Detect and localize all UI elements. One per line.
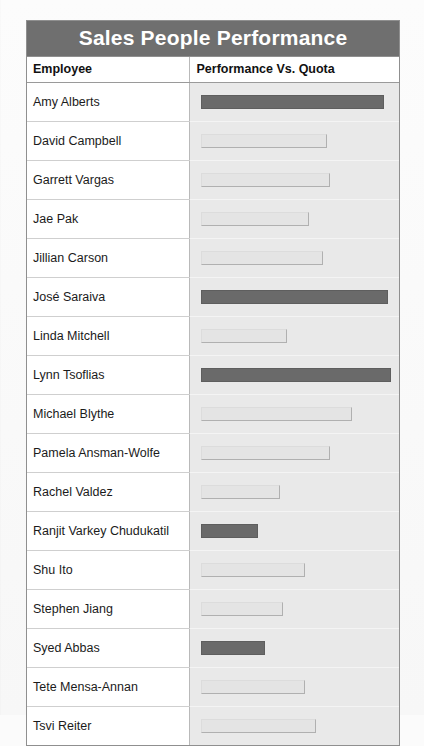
bar-track <box>190 161 400 199</box>
bar-track <box>190 83 400 121</box>
performance-bar <box>201 524 259 538</box>
header-row: Employee Performance Vs. Quota <box>27 57 399 82</box>
bar-track <box>190 200 400 238</box>
performance-bar-cell <box>189 355 399 394</box>
bar-track <box>190 707 400 745</box>
employee-name-cell: Jae Pak <box>27 199 189 238</box>
employee-name-cell: Pamela Ansman-Wolfe <box>27 433 189 472</box>
performance-bar <box>201 173 331 187</box>
table-row: Tete Mensa-Annan <box>27 667 399 706</box>
table-row: Stephen Jiang <box>27 589 399 628</box>
performance-bar-cell <box>189 628 399 667</box>
performance-bar-cell <box>189 199 399 238</box>
performance-bar <box>201 446 331 460</box>
table-row: Michael Blythe <box>27 394 399 433</box>
performance-bar-cell <box>189 706 399 745</box>
report-title: Sales People Performance <box>27 21 399 57</box>
sales-performance-report: Sales People Performance Employee Perfor… <box>26 20 400 746</box>
table-row: Linda Mitchell <box>27 316 399 355</box>
performance-bar <box>201 563 305 577</box>
table-row: Garrett Vargas <box>27 160 399 199</box>
employee-name-cell: Rachel Valdez <box>27 472 189 511</box>
table-row: Amy Alberts <box>27 82 399 121</box>
employee-name-cell: Jillian Carson <box>27 238 189 277</box>
column-header-employee: Employee <box>27 57 189 82</box>
employee-name-cell: Michael Blythe <box>27 394 189 433</box>
bar-track <box>190 278 400 316</box>
performance-bar-cell <box>189 82 399 121</box>
bar-track <box>190 239 400 277</box>
table-row: Jillian Carson <box>27 238 399 277</box>
performance-bar-cell <box>189 472 399 511</box>
performance-bar-cell <box>189 121 399 160</box>
performance-bar-cell <box>189 667 399 706</box>
performance-bar <box>201 680 305 694</box>
performance-bar-cell <box>189 433 399 472</box>
performance-bar <box>201 251 323 265</box>
employee-name-cell: Garrett Vargas <box>27 160 189 199</box>
table-row: Lynn Tsoflias <box>27 355 399 394</box>
table-row: Syed Abbas <box>27 628 399 667</box>
performance-bar <box>201 641 266 655</box>
performance-bar-cell <box>189 511 399 550</box>
performance-bar-cell <box>189 277 399 316</box>
bar-track <box>190 551 400 589</box>
performance-bar <box>201 290 388 304</box>
performance-table: Employee Performance Vs. Quota Amy Alber… <box>27 57 399 745</box>
table-header: Employee Performance Vs. Quota <box>27 57 399 82</box>
employee-name-cell: Tsvi Reiter <box>27 706 189 745</box>
bar-track <box>190 122 400 160</box>
performance-bar <box>201 329 287 343</box>
employee-name-cell: Amy Alberts <box>27 82 189 121</box>
performance-bar <box>201 602 284 616</box>
employee-name-cell: Shu Ito <box>27 550 189 589</box>
performance-bar-cell <box>189 550 399 589</box>
table-row: David Campbell <box>27 121 399 160</box>
employee-name-cell: Lynn Tsoflias <box>27 355 189 394</box>
performance-bar <box>201 719 316 733</box>
employee-name-cell: David Campbell <box>27 121 189 160</box>
bar-track <box>190 317 400 355</box>
performance-bar <box>201 134 327 148</box>
table-row: Shu Ito <box>27 550 399 589</box>
bar-track <box>190 434 400 472</box>
bar-track <box>190 356 400 394</box>
performance-bar <box>201 368 392 382</box>
bar-track <box>190 473 400 511</box>
bar-track <box>190 629 400 667</box>
table-row: Pamela Ansman-Wolfe <box>27 433 399 472</box>
employee-name-cell: Stephen Jiang <box>27 589 189 628</box>
table-row: Ranjit Varkey Chudukatil <box>27 511 399 550</box>
column-header-performance: Performance Vs. Quota <box>189 57 399 82</box>
performance-bar <box>201 212 309 226</box>
employee-name-cell: Tete Mensa-Annan <box>27 667 189 706</box>
employee-name-cell: Ranjit Varkey Chudukatil <box>27 511 189 550</box>
performance-bar <box>201 485 280 499</box>
performance-bar-cell <box>189 160 399 199</box>
table-body: Amy AlbertsDavid CampbellGarrett VargasJ… <box>27 82 399 745</box>
bar-track <box>190 590 400 628</box>
employee-name-cell: José Saraiva <box>27 277 189 316</box>
performance-bar <box>201 407 352 421</box>
performance-bar <box>201 95 385 109</box>
employee-name-cell: Syed Abbas <box>27 628 189 667</box>
bar-track <box>190 668 400 706</box>
table-row: Rachel Valdez <box>27 472 399 511</box>
performance-bar-cell <box>189 238 399 277</box>
performance-bar-cell <box>189 589 399 628</box>
employee-name-cell: Linda Mitchell <box>27 316 189 355</box>
bar-track <box>190 395 400 433</box>
bar-track <box>190 512 400 550</box>
performance-bar-cell <box>189 394 399 433</box>
table-row: José Saraiva <box>27 277 399 316</box>
performance-bar-cell <box>189 316 399 355</box>
table-row: Tsvi Reiter <box>27 706 399 745</box>
table-row: Jae Pak <box>27 199 399 238</box>
